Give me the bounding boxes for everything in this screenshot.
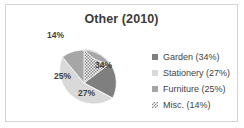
pie-plot-area: 34% 27% 25% 14% (38, 29, 146, 125)
chart-title: Other (2010) (6, 12, 237, 26)
chart-legend: Garden (34%) Stationery (27%) Furniture … (152, 49, 236, 113)
data-label-misc: 14% (47, 30, 64, 40)
legend-label-garden: Garden (34%) (163, 53, 220, 62)
legend-label-misc: Misc. (14%) (163, 101, 211, 110)
legend-item-garden: Garden (34%) (152, 49, 236, 65)
legend-label-stationery: Stationery (27%) (163, 69, 230, 78)
data-label-garden: 34% (95, 60, 112, 70)
legend-swatch-garden-icon (152, 54, 158, 60)
chart-screenshot: Other (2010) (0, 0, 244, 128)
legend-item-furniture: Furniture (25%) (152, 81, 236, 97)
data-label-furniture: 25% (54, 71, 71, 81)
legend-item-misc: Misc. (14%) (152, 97, 236, 113)
legend-item-stationery: Stationery (27%) (152, 65, 236, 81)
legend-swatch-furniture-icon (152, 86, 158, 92)
chart-frame: Other (2010) (5, 4, 238, 122)
legend-swatch-stationery-icon (152, 70, 158, 76)
legend-label-furniture: Furniture (25%) (163, 85, 226, 94)
data-label-stationery: 27% (78, 88, 95, 98)
legend-swatch-misc-icon (152, 102, 158, 108)
